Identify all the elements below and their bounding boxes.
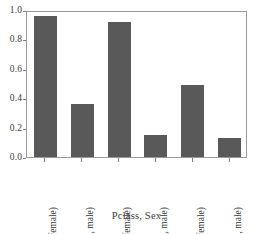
x-axis-title: Pclass, Sex [26,210,247,222]
y-axis-tick-label: 1.0 [0,6,22,16]
y-axis-tick-label: 0.6 [0,65,22,75]
x-axis-tick-mark [192,158,193,162]
bar-chart-figure: 1.00.80.60.40.20.0 (1, female)(1, male)(… [0,0,258,234]
bar [108,22,131,157]
bars-group [27,12,246,157]
plot-area [26,11,247,158]
y-axis-tick-label: 0.8 [0,36,22,46]
bar [218,138,241,157]
bar [71,104,94,157]
x-axis-tick-labels: (1, female)(1, male)(2, female)(2, male)… [26,163,247,209]
x-axis-tick-mark [155,158,156,162]
bar [181,85,204,157]
y-axis: 1.00.80.60.40.20.0 [0,0,22,234]
y-axis-tick-label: 0.0 [0,153,22,163]
y-axis-tick-label: 0.2 [0,124,22,134]
bar [144,135,167,157]
bar [34,16,57,157]
x-axis-tick-mark [229,158,230,162]
x-axis-tick-mark [44,158,45,162]
y-axis-tick-label: 0.4 [0,94,22,104]
x-axis-tick-mark [81,158,82,162]
x-axis-tick-mark [118,158,119,162]
